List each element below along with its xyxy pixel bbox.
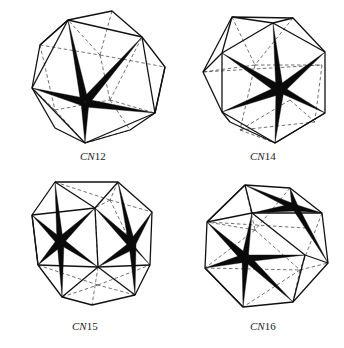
cn16-polyhedron (205, 185, 328, 307)
cn15-polyhedron (32, 182, 152, 305)
cn14-polyhedron (203, 17, 325, 143)
cn14-label: CN14 (250, 150, 276, 162)
cn12-bond-spikes (32, 20, 155, 143)
cn12-polyhedron (32, 11, 165, 143)
cn16-label: CN16 (250, 320, 276, 332)
cn15-label: CN15 (72, 320, 98, 332)
cn15-bond-spikes (32, 182, 152, 297)
cn16-visible-edges (205, 185, 328, 307)
cn12-label: CN12 (80, 150, 106, 162)
cn12-visible-edges (32, 11, 165, 143)
coordination-polyhedra-figure (0, 0, 344, 348)
